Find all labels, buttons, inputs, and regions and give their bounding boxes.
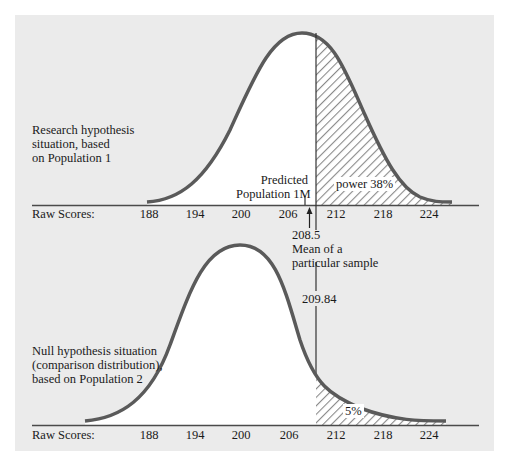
- tick-label: 218: [374, 428, 393, 442]
- tick-label: 224: [420, 207, 439, 221]
- caption-line: Null hypothesis situation: [32, 344, 163, 358]
- caption-line: (comparison distribution),: [32, 358, 163, 372]
- tick-label: 218: [374, 207, 393, 221]
- caption-line: based on Population 2: [32, 372, 163, 386]
- tick-label: 224: [420, 428, 439, 442]
- tick-label: 194: [186, 428, 205, 442]
- alpha-label: 5%: [343, 404, 364, 418]
- tick-label: 188: [140, 428, 159, 442]
- tick-label: 206: [279, 207, 298, 221]
- label-line: Predicted: [236, 173, 308, 187]
- cutoff-value-label: 209.84: [302, 292, 336, 306]
- tick-label: 212: [327, 207, 346, 221]
- research-hypothesis-caption: Research hypothesis situation, based on …: [32, 123, 134, 165]
- label-line: Population 1M: [236, 187, 308, 201]
- tick-label: 194: [186, 207, 205, 221]
- power-diagram: [0, 0, 508, 461]
- power-label: power 38%: [334, 177, 395, 191]
- label-line: Mean of a: [292, 242, 378, 256]
- bottom-distribution: [32, 245, 479, 426]
- tick-label: 212: [327, 428, 346, 442]
- caption-line: on Population 1: [32, 151, 134, 165]
- sample-mean-value: 208.5: [292, 228, 320, 242]
- sample-mean-label: Mean of a particular sample: [292, 242, 378, 270]
- top-axis-label: Raw Scores:: [32, 207, 95, 221]
- bottom-axis-label: Raw Scores:: [32, 428, 95, 442]
- sample-mean-arrow: [307, 207, 313, 228]
- tick-label: 188: [140, 207, 159, 221]
- label-line: particular sample: [292, 256, 378, 270]
- caption-line: situation, based: [32, 137, 134, 151]
- caption-line: Research hypothesis: [32, 123, 134, 137]
- tick-label: 200: [232, 428, 251, 442]
- null-hypothesis-caption: Null hypothesis situation (comparison di…: [32, 344, 163, 386]
- predicted-population-label: Predicted Population 1M: [236, 173, 308, 201]
- tick-label: 200: [232, 207, 251, 221]
- tick-label: 206: [280, 428, 299, 442]
